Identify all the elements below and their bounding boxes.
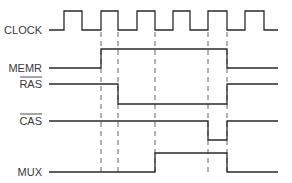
waveform-mux [49, 153, 278, 172]
timing-diagram: CLOCKMEMRRASCASMUX [0, 0, 292, 183]
signal-label-ras: RAS [19, 78, 42, 90]
signal-label-cas: CAS [19, 115, 42, 127]
waveform-ras [49, 84, 278, 104]
waveform-cas [49, 121, 278, 140]
signal-label-memr: MEMR [8, 62, 42, 74]
waveform-clock [49, 11, 278, 30]
signal-label-clock: CLOCK [4, 24, 43, 36]
waveform-memr [49, 49, 278, 68]
signal-label-mux: MUX [18, 166, 43, 178]
